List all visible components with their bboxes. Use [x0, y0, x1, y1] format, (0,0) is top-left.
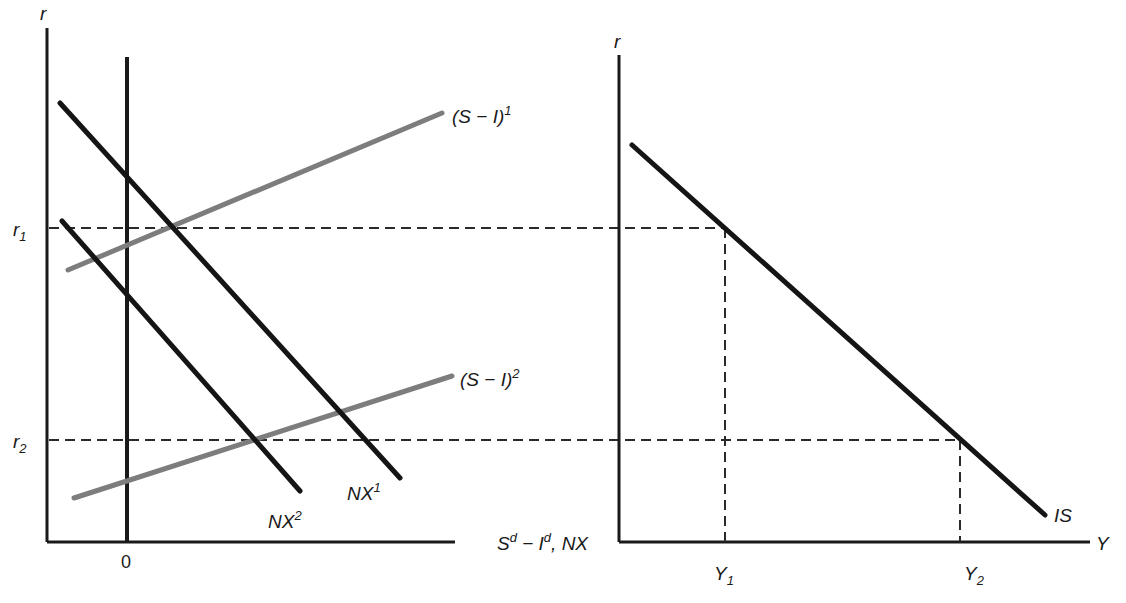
nx1-curve	[60, 103, 400, 478]
si2-label: (S − I)2	[460, 366, 520, 390]
nx2-label: NX2	[268, 508, 302, 532]
right-panel: r Y IS Y1 Y2	[614, 31, 1110, 588]
r2-label: r2	[13, 431, 27, 456]
is-curve-derivation-diagram: r r1 r2 (S − I)1 (S − I)2 NX1 NX2 0 Sd −…	[0, 0, 1126, 603]
si2-curve	[74, 376, 452, 498]
r1-label: r1	[13, 219, 27, 244]
zero-tick-label: 0	[121, 552, 131, 572]
y2-label: Y2	[964, 563, 985, 588]
right-x-axis-label: Y	[1096, 533, 1110, 554]
is-curve	[632, 145, 1045, 515]
nx1-label: NX1	[347, 480, 381, 504]
left-panel: r r1 r2 (S − I)1 (S − I)2 NX1 NX2 0 Sd −…	[13, 3, 960, 572]
left-x-axis-label: Sd − Id, NX	[497, 530, 589, 554]
si1-label: (S − I)1	[452, 103, 512, 127]
left-y-axis-label: r	[40, 3, 47, 24]
y1-label: Y1	[714, 563, 734, 588]
right-y-axis-label: r	[614, 31, 621, 52]
is-curve-label: IS	[1054, 505, 1072, 526]
nx2-curve	[62, 221, 300, 491]
si1-curve	[68, 113, 442, 270]
